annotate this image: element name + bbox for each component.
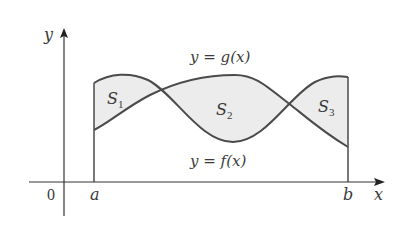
bound-label-a: a bbox=[90, 185, 100, 204]
origin-label: 0 bbox=[47, 186, 55, 203]
x-axis-label: x bbox=[374, 185, 383, 204]
curve-g-label: y = g(x) bbox=[189, 48, 250, 66]
area-between-curves-diagram: y x 0 a b y = g(x) y = f(x) S1 S2 S3 bbox=[0, 0, 405, 226]
bound-label-b: b bbox=[343, 185, 353, 204]
y-axis-label: y bbox=[43, 25, 54, 44]
curve-f-label: y = f(x) bbox=[189, 152, 246, 170]
